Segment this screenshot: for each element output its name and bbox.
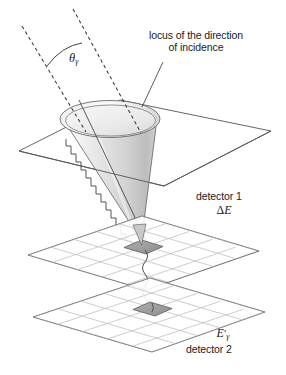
detector2-grid-plane [10, 270, 286, 360]
theta-angle-label: θγ [69, 51, 78, 67]
gamma-subscript: γ [226, 332, 229, 341]
detector-2-energy-label: E′γ [203, 327, 243, 342]
diagram-canvas [0, 0, 286, 375]
detector-1-label: detector 1 [196, 191, 242, 203]
locus-of-incidence-label: locus of the direction of incidence [131, 30, 261, 54]
locus-label-line1: locus of the direction [149, 29, 243, 41]
locus-label-leader-line [142, 62, 163, 107]
energy-symbol: E [224, 203, 231, 217]
detector-1-energy-label: ΔE [196, 204, 252, 217]
locus-label-line2: of incidence [131, 42, 261, 54]
theta-subscript: γ [75, 57, 78, 66]
cone-rim-ellipse [60, 101, 160, 138]
physics-diagram: locus of the direction of incidence θγ d… [0, 0, 286, 375]
scattered-energy-symbol: E [217, 326, 224, 340]
detector-2-label: detector 2 [186, 344, 232, 356]
dashed-incidence-line-left [22, 26, 86, 132]
